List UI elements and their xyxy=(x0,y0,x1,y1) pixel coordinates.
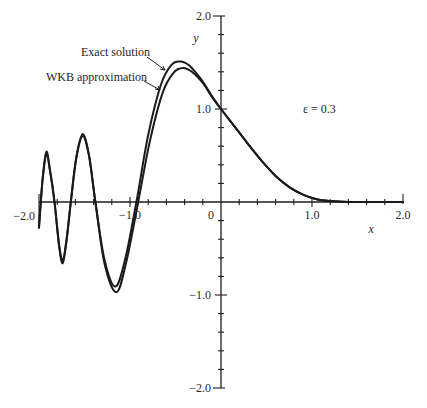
y-tick-label: −2.0 xyxy=(189,381,211,395)
y-tick-label: 2.0 xyxy=(196,9,211,23)
chart: −2.0−1.001.02.02.01.0−1.0−2.0 x y Exact … xyxy=(0,0,427,408)
epsilon-annotation: ε = 0.3 xyxy=(303,102,336,116)
y-tick-label: 1.0 xyxy=(196,102,211,116)
x-tick-label: 1.0 xyxy=(305,208,320,222)
legend-label-exact-solution: Exact solution xyxy=(81,45,150,59)
x-tick-label: 0 xyxy=(208,208,214,222)
x-tick-label: −2.0 xyxy=(13,209,35,223)
y-axis-label: y xyxy=(192,31,199,45)
y-tick-label: −1.0 xyxy=(189,288,211,302)
legend: Exact solution WKB approximation xyxy=(46,45,165,90)
arrow-to-exact-solution xyxy=(147,57,165,70)
x-axis-label: x xyxy=(367,222,374,236)
x-tick-label: 2.0 xyxy=(396,208,411,222)
legend-label-wkb-approximation: WKB approximation xyxy=(46,70,147,84)
arrow-to-wkb-approximation xyxy=(144,81,160,90)
